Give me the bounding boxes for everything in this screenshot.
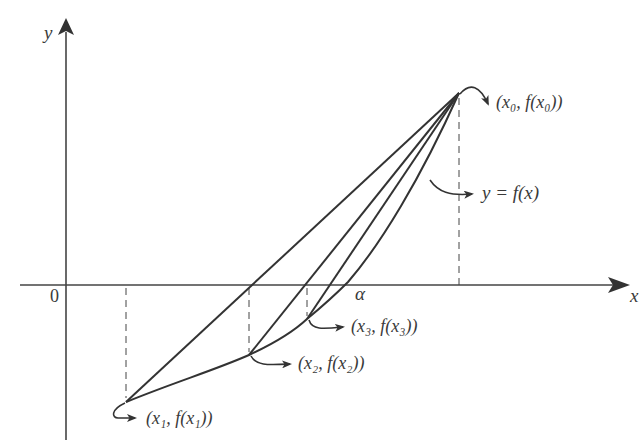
secant-lines xyxy=(126,93,459,402)
y-axis-label: y xyxy=(42,22,53,43)
arrow-p3-icon xyxy=(309,320,343,328)
secant-method-diagram: y x 0 α y = f(x) (x₀, f(x₀)) (x₁, f(x₁))… xyxy=(0,0,644,443)
point-p0-label: (x₀, f(x₀)) xyxy=(496,92,562,113)
y-axis xyxy=(58,18,74,440)
x-axis-label: x xyxy=(629,285,639,306)
arrow-curve-icon xyxy=(430,180,472,194)
arrow-p1-icon xyxy=(114,403,135,418)
origin-label: 0 xyxy=(50,286,59,306)
curve-label: y = f(x) xyxy=(480,182,539,204)
point-p3-label: (x₃, f(x₃)) xyxy=(351,316,417,337)
arrow-p2-icon xyxy=(251,356,290,365)
secant-p1-p0 xyxy=(126,93,459,402)
root-alpha-label: α xyxy=(355,283,366,304)
arrow-p0-icon xyxy=(460,87,488,104)
point-p1-label: (x₁, f(x₁)) xyxy=(146,408,212,429)
point-p2-label: (x₂, f(x₂)) xyxy=(298,353,364,374)
